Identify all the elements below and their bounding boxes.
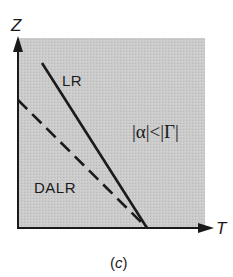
caption-close-paren: ) xyxy=(123,254,128,271)
region-condition-label: |α|<|Γ| xyxy=(132,122,179,141)
z-axis-label: Z xyxy=(11,17,21,34)
panel-caption: (c) xyxy=(110,255,128,270)
caption-letter: c xyxy=(115,254,123,271)
t-axis-arrowhead-icon xyxy=(198,223,214,233)
lr-label: LR xyxy=(62,73,82,88)
lapse-rate-diagram: Z T LR DALR |α|<|Γ| (c) xyxy=(0,0,233,277)
dalr-label: DALR xyxy=(34,180,76,195)
t-axis-label: T xyxy=(216,220,226,237)
diagram-canvas xyxy=(0,0,233,277)
